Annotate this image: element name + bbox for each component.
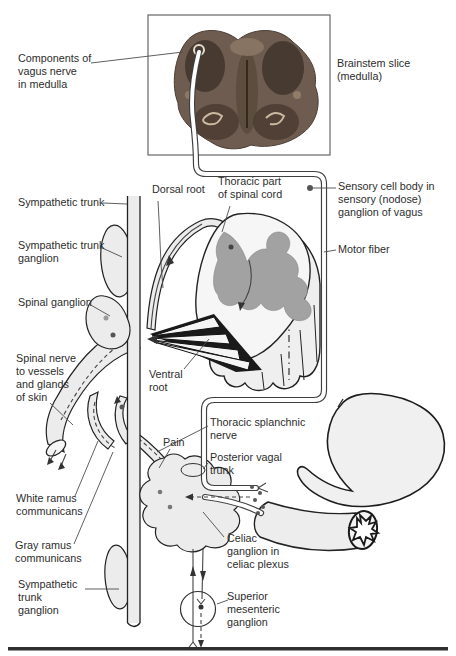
label-sensory-cell-body: Sensory cell body in sensory (nodose) ga… [338,180,435,219]
bottom-rule [8,647,448,651]
label-thoracic-part: Thoracic part of spinal cord [218,175,282,201]
label-sympathetic-trunk-ganglion-lower: Sympathetic trunk ganglion [18,578,77,617]
label-spinal-ganglion: Spinal ganglion [18,296,92,309]
label-spinal-nerve: Spinal nerve to vessels and glands of sk… [16,352,76,404]
label-celiac-ganglion: Celiac ganglion in celiac plexus [227,532,289,571]
label-brainstem-slice: Brainstem slice (medulla) [337,57,410,83]
figure: Components of vagus nerve in medulla Bra… [0,0,456,656]
label-components-of-vagus: Components of vagus nerve in medulla [18,52,91,91]
stomach [298,393,445,506]
label-posterior-vagal: Posterior vagal trunk [210,451,282,477]
label-sympathetic-trunk-ganglion: Sympathetic trunk ganglion [18,239,104,265]
label-thoracic-splanchnic: Thoracic splanchnic nerve [210,416,305,442]
label-ventral-root: Ventral root [149,368,183,394]
label-white-ramus: White ramus communicans [16,492,83,518]
label-gray-ramus: Gray ramus communicans [15,539,82,565]
label-pain: Pain [163,436,185,449]
rami-communicantes [88,392,133,449]
superior-mesenteric-ganglion [181,549,216,650]
label-superior-mesenteric: Superior mesenteric ganglion [227,590,280,629]
sensory-cell-body-dot [307,185,313,191]
label-dorsal-root: Dorsal root [152,183,205,196]
spinal-ganglion [86,296,130,349]
label-motor-fiber: Motor fiber [338,243,390,256]
spinal-cord [196,213,320,390]
label-sympathetic-trunk: Sympathetic trunk [18,196,104,209]
